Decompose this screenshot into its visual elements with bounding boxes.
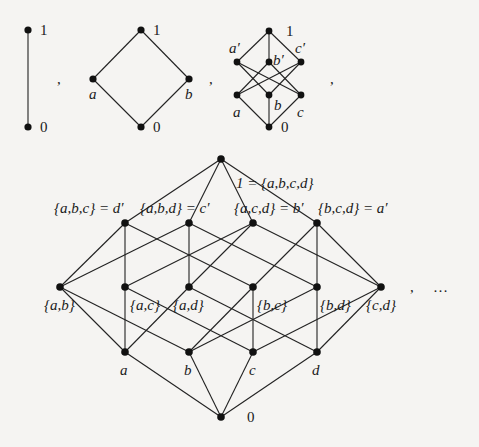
cube-b-prime-label: b′ [273,52,285,68]
separator-comma: , [209,71,213,87]
ellipsis: … [433,279,448,295]
node-top [217,155,225,163]
label-a: a [120,362,128,378]
hypercube-lattice: 1 = {a,b,c,d} {a,b,c} = d′ {a,b,d} = c′ … [44,155,396,425]
label-abc: {a,b,c} = d′ [54,200,124,216]
label-bcd: {b,c,d} = a′ [318,200,388,216]
label-ab: {a,b} [44,297,75,313]
chain-bottom-node [24,123,31,130]
cube-a-prime-label: a′ [229,40,241,56]
cube-c-prime-label: c′ [295,40,306,56]
label-abd: {a,b,d} = c′ [140,200,210,216]
lattice-figure: 1 0 , 1 a b 0 , [0,0,479,447]
chain-bottom-label: 0 [40,119,48,135]
cube-c-label: c [297,104,304,120]
node-bottom [217,413,225,421]
label-acd: {a,c,d} = b′ [234,200,304,216]
cube-bottom-label: 0 [281,119,289,135]
chain-top-node [24,26,31,33]
chain-lattice: 1 0 [24,22,47,135]
separator-comma: , [57,71,61,87]
hypercube-top-label: 1 = {a,b,c,d} [236,175,314,191]
diamond-a-label: a [89,86,97,102]
chain-top-label: 1 [40,22,48,38]
label-cd: {c,d} [366,297,396,313]
label-bc: {b,c} [257,297,287,313]
cube-b-label: b [274,97,282,113]
diamond-bottom-label: 0 [153,119,161,135]
label-ac: {a,c} [130,297,160,313]
label-c: c [249,362,256,378]
separator-comma: , [410,279,414,295]
diamond-b-label: b [185,86,193,102]
label-d: d [312,362,320,378]
hypercube-bottom-label: 0 [247,409,255,425]
cube-lattice: 1 a′ b′ c′ a b c 0 [229,23,306,135]
label-ad: {a,d} [173,297,204,313]
diamond-top-label: 1 [153,22,161,38]
label-bd: {b,d} [320,297,351,313]
label-b: b [184,362,192,378]
diamond-lattice: 1 a b 0 [89,22,193,135]
separator-comma: , [330,71,334,87]
cube-a-label: a [233,104,241,120]
lattice-diagrams-svg: 1 0 , 1 a b 0 , [0,0,479,447]
cube-top-label: 1 [286,23,294,39]
